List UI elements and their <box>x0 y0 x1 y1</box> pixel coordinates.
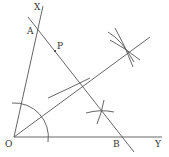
label-p: P <box>57 41 63 51</box>
label-a: A <box>26 26 34 36</box>
construction-arc-3 <box>110 40 140 60</box>
construction-arc-4 <box>86 111 114 113</box>
label-x: X <box>34 2 41 12</box>
geometry-diagram: X A P O B Y <box>0 0 169 157</box>
construction-arc-1 <box>108 32 134 62</box>
line-ab <box>28 17 134 152</box>
point-p <box>54 50 56 52</box>
label-o: O <box>5 139 12 149</box>
label-y: Y <box>154 139 162 149</box>
label-b: B <box>113 139 120 149</box>
